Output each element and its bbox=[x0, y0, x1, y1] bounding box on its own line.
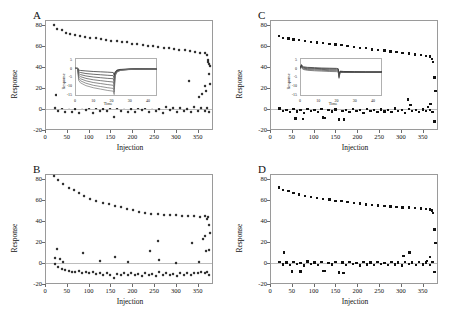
x-tick-mark bbox=[132, 284, 133, 287]
y-tick-label: 60 bbox=[242, 196, 267, 203]
x-tick-label: 50 bbox=[280, 133, 304, 140]
inset-x-tick-label: 30 bbox=[349, 98, 361, 103]
data-point bbox=[432, 212, 434, 214]
x-tick-label: 150 bbox=[323, 133, 347, 140]
data-point bbox=[401, 52, 403, 54]
panel-c-inset-traces bbox=[300, 58, 382, 96]
y-tick-label: 0 bbox=[17, 259, 42, 266]
x-tick-label: 0 bbox=[258, 133, 282, 140]
data-point bbox=[402, 255, 404, 257]
panel-d-x-axis-label: Injection bbox=[270, 297, 440, 306]
y-tick-label: -20 bbox=[17, 126, 42, 133]
data-point bbox=[320, 261, 322, 263]
data-point bbox=[292, 38, 294, 40]
data-point bbox=[141, 43, 144, 46]
data-point bbox=[427, 106, 429, 108]
data-point bbox=[291, 270, 293, 272]
data-point bbox=[345, 109, 347, 111]
data-point bbox=[432, 61, 434, 63]
data-point bbox=[287, 190, 289, 192]
data-point bbox=[414, 53, 416, 55]
panel-a-inset: Response Time 50-5-10-15010203040 bbox=[57, 56, 164, 108]
x-tick-mark bbox=[89, 130, 90, 133]
data-point bbox=[415, 109, 417, 111]
y-tick-label: 40 bbox=[242, 217, 267, 224]
x-tick-label: 300 bbox=[164, 287, 188, 294]
x-tick-label: 350 bbox=[186, 133, 210, 140]
inset-y-tick-label: -5 bbox=[59, 74, 72, 79]
inset-x-tick-label: 0 bbox=[294, 98, 306, 103]
data-point bbox=[328, 43, 330, 45]
x-tick-label: 100 bbox=[77, 287, 101, 294]
y-tick-mark bbox=[42, 221, 45, 222]
data-point bbox=[67, 186, 70, 189]
data-point bbox=[365, 203, 367, 205]
data-point bbox=[282, 263, 284, 265]
y-tick-mark bbox=[42, 263, 45, 264]
data-point bbox=[341, 261, 343, 263]
y-tick-mark bbox=[42, 200, 45, 201]
data-point bbox=[334, 200, 336, 202]
figure-root: A Response Injection -200204060800501001… bbox=[0, 0, 449, 309]
data-point bbox=[359, 47, 361, 49]
panel-c: C Response Injection -200204060800501001… bbox=[225, 0, 449, 155]
x-tick-mark bbox=[314, 284, 315, 287]
data-point bbox=[420, 207, 422, 209]
data-point bbox=[317, 111, 319, 113]
data-point bbox=[383, 49, 385, 51]
data-point bbox=[310, 110, 312, 112]
y-tick-mark bbox=[42, 109, 45, 110]
data-point bbox=[296, 110, 298, 112]
x-tick-label: 250 bbox=[367, 287, 391, 294]
data-point bbox=[359, 264, 361, 266]
data-point bbox=[429, 256, 431, 258]
data-point bbox=[380, 263, 382, 265]
panel-a-x-axis-label: Injection bbox=[45, 143, 215, 152]
x-tick-mark bbox=[292, 284, 293, 287]
x-tick-mark bbox=[198, 284, 199, 287]
data-point bbox=[302, 118, 304, 120]
x-tick-label: 250 bbox=[142, 133, 166, 140]
data-point bbox=[369, 110, 371, 112]
data-point bbox=[387, 109, 389, 111]
panel-c-x-axis-label: Injection bbox=[270, 143, 440, 152]
data-point bbox=[390, 111, 392, 113]
data-point bbox=[328, 198, 330, 200]
x-tick-mark bbox=[67, 284, 68, 287]
panel-d: D Response Injection -200204060800501001… bbox=[225, 154, 449, 309]
inset-y-tick-label: -10 bbox=[59, 83, 72, 88]
data-point bbox=[373, 109, 375, 111]
data-point bbox=[383, 262, 385, 264]
data-point bbox=[422, 263, 424, 265]
y-tick-mark bbox=[42, 46, 45, 47]
data-point bbox=[343, 118, 345, 120]
data-point bbox=[304, 40, 306, 42]
panel-a-letter: A bbox=[33, 9, 41, 21]
data-point bbox=[389, 205, 391, 207]
data-point bbox=[282, 37, 284, 39]
data-point bbox=[395, 206, 397, 208]
data-point bbox=[346, 45, 348, 47]
y-tick-label: 0 bbox=[242, 259, 267, 266]
x-tick-mark bbox=[154, 284, 155, 287]
x-tick-mark bbox=[357, 284, 358, 287]
data-point bbox=[340, 44, 342, 46]
data-point bbox=[299, 270, 301, 272]
x-tick-label: 100 bbox=[77, 133, 101, 140]
data-point bbox=[322, 42, 324, 44]
inset-y-tick-label: 0 bbox=[59, 66, 72, 71]
y-tick-mark bbox=[267, 88, 270, 89]
y-tick-label: 80 bbox=[17, 21, 42, 28]
data-point bbox=[353, 46, 355, 48]
data-point bbox=[299, 109, 301, 111]
data-point bbox=[310, 196, 312, 198]
y-tick-mark bbox=[267, 242, 270, 243]
x-tick-mark bbox=[45, 130, 46, 133]
x-tick-mark bbox=[379, 284, 380, 287]
x-tick-mark bbox=[132, 130, 133, 133]
data-point bbox=[434, 90, 436, 92]
data-point bbox=[175, 110, 178, 113]
data-point bbox=[278, 186, 280, 188]
x-tick-mark bbox=[357, 130, 358, 133]
data-point bbox=[306, 260, 308, 262]
